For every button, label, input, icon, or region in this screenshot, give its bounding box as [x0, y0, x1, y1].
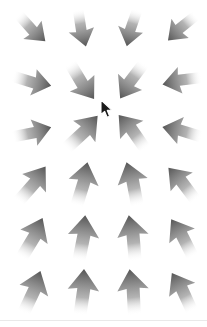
arrow-shape: [66, 268, 101, 317]
arrow-r2c3: [106, 55, 158, 107]
arrow-r2c4: [156, 55, 207, 107]
arrow-r3c2: [56, 106, 108, 158]
arrow-r4c4: [156, 158, 207, 210]
arrow-shape: [160, 265, 206, 317]
arrow-r4c1: [6, 158, 58, 210]
arrow-r1c2: [56, 2, 108, 54]
arrow-r5c2: [56, 212, 108, 264]
arrow-r4c3: [106, 158, 158, 210]
arrow-shape: [56, 106, 110, 160]
arrow-r5c3: [106, 212, 158, 264]
arrow-r6c4: [156, 266, 207, 318]
arrow-r6c1: [6, 266, 58, 318]
arrow-r2c1: [6, 55, 58, 107]
arrow-r1c1: [6, 2, 58, 54]
arrow-r6c2: [56, 266, 108, 318]
arrow-shape: [158, 158, 207, 209]
arrow-shape: [160, 63, 204, 97]
arrow-shape: [113, 158, 154, 209]
arrow-shape: [107, 55, 155, 106]
arrow-r1c3: [106, 2, 158, 54]
arrow-shape: [159, 5, 204, 49]
arrow-shape: [159, 113, 205, 150]
arrow-shape: [114, 213, 152, 263]
arrow-r3c1: [6, 106, 58, 158]
arrow-shape: [9, 6, 54, 51]
arrow-shape: [113, 6, 148, 49]
bottom-edge-divider: [0, 320, 207, 321]
arrow-r3c4: [156, 106, 207, 158]
arrow-shape: [10, 266, 56, 319]
arrow-r4c2: [56, 158, 108, 210]
arrow-shape: [9, 211, 57, 265]
arrow-shape: [63, 159, 104, 210]
arrow-r3c3: [106, 106, 158, 158]
arrow-shape: [7, 158, 58, 211]
arrow-r2c2: [56, 55, 108, 107]
arrow-shape: [108, 105, 158, 157]
arrow-r5c4: [156, 212, 207, 264]
arrow-shape: [64, 7, 97, 49]
arrow-shape: [57, 55, 106, 107]
arrow-r1c4: [156, 2, 207, 54]
arrow-shape: [159, 211, 206, 263]
arrow-shape: [9, 64, 54, 100]
arrow-shape: [64, 213, 102, 263]
arrow-r6c3: [106, 266, 158, 318]
arrow-grid-canvas: [0, 0, 207, 327]
arrow-shape: [10, 115, 55, 151]
arrow-r5c1: [6, 212, 58, 264]
arrow-shape: [115, 267, 151, 316]
